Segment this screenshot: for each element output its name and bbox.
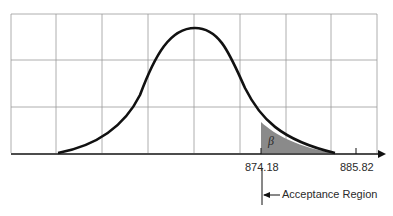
- axis-arrow-icon: [378, 150, 386, 158]
- normal-curve-chart: [0, 0, 393, 216]
- acceptance-arrow-icon: [263, 192, 270, 198]
- normal-curve: [58, 28, 335, 153]
- acceptance-region-label: Acceptance Region: [282, 188, 377, 200]
- tick-label-874: 874.18: [245, 161, 279, 173]
- beta-label: β: [268, 134, 274, 149]
- tick-label-885: 885.82: [340, 161, 374, 173]
- grid: [11, 14, 377, 153]
